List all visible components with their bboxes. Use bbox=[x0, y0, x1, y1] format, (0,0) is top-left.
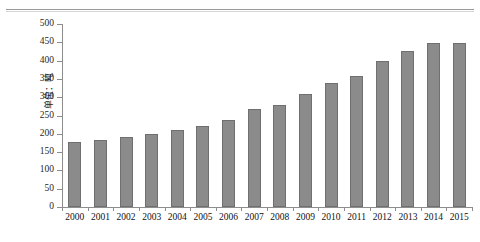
y-tick-label: 300 bbox=[40, 91, 54, 102]
bar-series bbox=[62, 24, 472, 207]
x-tick-label: 2015 bbox=[439, 211, 479, 223]
bar bbox=[68, 142, 81, 207]
x-axis-labels: 2000200120022003200420052006200720082009… bbox=[62, 211, 472, 225]
bar bbox=[94, 140, 107, 207]
bar bbox=[453, 43, 466, 207]
bar bbox=[401, 51, 414, 207]
bar-chart: 单位：吨 050100150200250300350400450500 2000… bbox=[0, 0, 480, 242]
bar bbox=[273, 105, 286, 207]
y-tick-label: 400 bbox=[40, 55, 54, 66]
bar bbox=[120, 137, 133, 207]
bar bbox=[248, 109, 261, 207]
bar bbox=[427, 43, 440, 207]
plot-area: 050100150200250300350400450500 bbox=[62, 24, 472, 207]
y-tick-label: 50 bbox=[45, 183, 55, 194]
bar bbox=[299, 94, 312, 207]
y-tick-label: 450 bbox=[40, 36, 54, 47]
y-tick-label: 0 bbox=[49, 201, 54, 212]
bar bbox=[376, 61, 389, 207]
bar bbox=[145, 134, 158, 207]
y-tick-label: 350 bbox=[40, 73, 54, 84]
y-tick-label: 100 bbox=[40, 164, 54, 175]
bar bbox=[325, 83, 338, 207]
y-tick-label: 200 bbox=[40, 128, 54, 139]
bar bbox=[196, 126, 209, 207]
bar bbox=[350, 76, 363, 207]
bar bbox=[171, 130, 184, 207]
y-tick-label: 150 bbox=[40, 146, 54, 157]
y-tick-label: 250 bbox=[40, 110, 54, 121]
y-tick-label: 500 bbox=[40, 18, 54, 29]
bar bbox=[222, 120, 235, 207]
